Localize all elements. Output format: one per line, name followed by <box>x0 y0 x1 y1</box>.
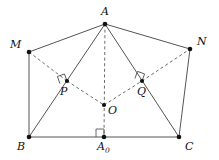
vertex-label-o: O <box>108 105 117 116</box>
vertex-label-c: C <box>185 141 193 152</box>
segment-n-c <box>179 49 190 137</box>
vertex-label-subscript-a0: 0 <box>105 146 110 155</box>
vertex-label-p: P <box>60 86 67 97</box>
vertex-label-a0: A0 <box>97 141 110 156</box>
vertex-dot-c <box>177 135 182 140</box>
vertex-label-b: B <box>17 141 25 152</box>
vertex-dot-p <box>65 79 69 83</box>
dashed-segment-m-p <box>29 52 67 81</box>
segment-a-m <box>29 24 105 52</box>
dashed-segment-a-a0 <box>104 24 105 137</box>
dashed-edge-group <box>29 24 190 137</box>
solid-edge-group <box>29 24 190 137</box>
dashed-segment-q-n <box>142 49 190 81</box>
vertex-label-a: A <box>101 6 109 17</box>
vertex-dot-b <box>27 135 32 140</box>
vertex-label-m: M <box>10 39 21 50</box>
vertex-label-n: N <box>197 36 207 47</box>
vertex-label-q: Q <box>137 86 146 97</box>
dashed-segment-p-o <box>67 81 104 105</box>
geometry-canvas <box>0 0 219 160</box>
vertex-dot-group <box>27 22 193 140</box>
vertex-dot-m <box>27 50 32 55</box>
segment-a-n <box>105 24 190 49</box>
vertex-dot-o <box>102 103 106 107</box>
vertex-dot-q <box>140 79 144 83</box>
geometry-figure: AMNPQOBCA0 <box>0 0 219 160</box>
vertex-dot-a0 <box>102 135 107 140</box>
vertex-dot-a <box>103 22 108 27</box>
vertex-dot-n <box>188 47 193 52</box>
right-angle-mark-group <box>57 71 144 137</box>
